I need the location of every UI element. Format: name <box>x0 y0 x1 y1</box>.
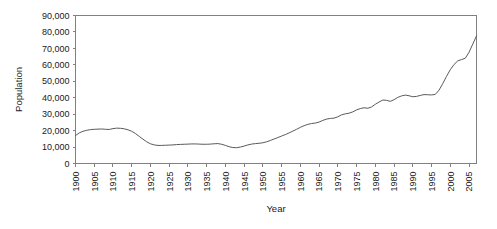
y-tick-label: 70,000 <box>42 44 70 54</box>
x-tick-label: 1935 <box>202 172 212 192</box>
chart-canvas: 90,00080,00070,00060,00050,00040,00030,0… <box>0 0 497 229</box>
y-axis-title: Population <box>13 67 24 112</box>
x-tick-label: 1920 <box>146 172 156 192</box>
data-series-layer <box>76 36 477 148</box>
x-tick-label: 1930 <box>183 172 193 192</box>
plot-frame <box>76 16 477 164</box>
x-tick-label: 1945 <box>240 172 250 192</box>
x-tick-label: 1980 <box>371 172 381 192</box>
y-tick-label: 60,000 <box>42 60 70 70</box>
x-tick-label: 1915 <box>127 172 137 192</box>
y-tick-label: 0 <box>64 159 69 169</box>
x-tick-label: 1955 <box>277 172 287 192</box>
y-tick-label: 40,000 <box>42 93 70 103</box>
x-tick-label: 1960 <box>296 172 306 192</box>
x-tick-label: 2000 <box>446 172 456 192</box>
y-tick-label: 30,000 <box>42 109 70 119</box>
y-tick-label: 10,000 <box>42 142 70 152</box>
y-axis-ticks: 90,00080,00070,00060,00050,00040,00030,0… <box>42 11 76 169</box>
x-tick-label: 1940 <box>221 172 231 192</box>
x-tick-label: 1905 <box>90 172 100 192</box>
x-tick-label: 1990 <box>408 172 418 192</box>
x-axis-ticks: 1900190519101915192019251930193519401945… <box>71 164 475 192</box>
x-tick-label: 1925 <box>165 172 175 192</box>
x-axis-title: Year <box>266 203 285 214</box>
y-tick-label: 90,000 <box>42 11 70 21</box>
data-line-population <box>76 36 477 148</box>
x-tick-label: 1970 <box>333 172 343 192</box>
x-tick-label: 1910 <box>108 172 118 192</box>
y-tick-label: 80,000 <box>42 27 70 37</box>
plot-border <box>76 16 477 164</box>
y-tick-label: 20,000 <box>42 126 70 136</box>
population-line-chart: 90,00080,00070,00060,00050,00040,00030,0… <box>0 0 497 229</box>
x-tick-label: 1950 <box>258 172 268 192</box>
x-tick-label: 2005 <box>464 172 474 192</box>
x-tick-label: 1900 <box>71 172 81 192</box>
x-tick-label: 1985 <box>389 172 399 192</box>
x-tick-label: 1975 <box>352 172 362 192</box>
x-tick-label: 1965 <box>314 172 324 192</box>
x-tick-label: 1995 <box>427 172 437 192</box>
y-tick-label: 50,000 <box>42 76 70 86</box>
